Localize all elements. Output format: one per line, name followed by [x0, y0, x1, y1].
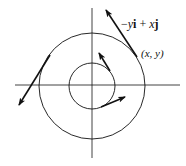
- point-label: (x, y): [141, 47, 164, 60]
- arrow-outer-left: [19, 55, 50, 105]
- vector-field-diagram: −yi + xj (x, y): [0, 0, 186, 166]
- arrow-inner-top: [99, 53, 110, 71]
- arrow-inner-bottom-right: [101, 97, 125, 107]
- vector-field-label: −yi + xj: [121, 17, 159, 31]
